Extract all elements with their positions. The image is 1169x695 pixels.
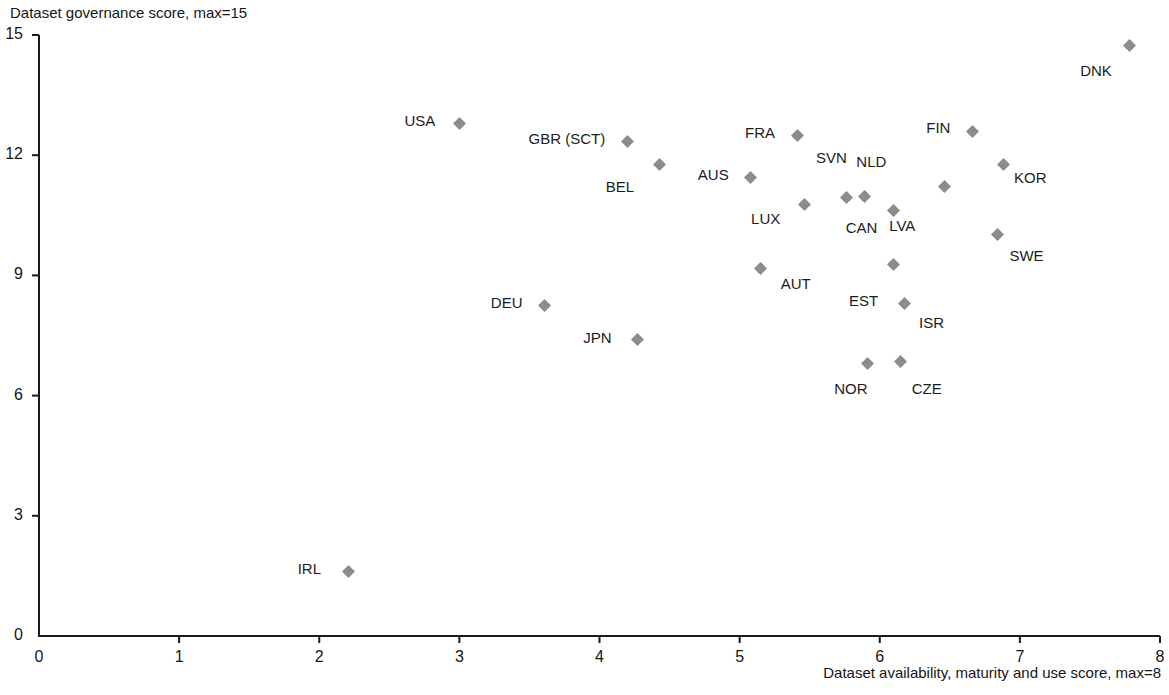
y-tick-label: 15 [0, 25, 23, 43]
data-point-marker[interactable] [990, 227, 1005, 242]
data-point-marker[interactable] [452, 116, 467, 131]
x-tick-label: 4 [585, 648, 615, 666]
data-point-marker[interactable] [857, 189, 872, 204]
x-tick-label: 1 [164, 648, 194, 666]
x-tick-label: 6 [865, 648, 895, 666]
data-point-marker[interactable] [630, 332, 645, 347]
scatter-chart: Dataset governance score, max=15 Dataset… [0, 0, 1169, 695]
data-point-label: CAN [843, 219, 881, 237]
data-point-marker[interactable] [937, 179, 952, 194]
data-point-label: AUS [695, 166, 732, 184]
y-tick-label: 3 [0, 506, 23, 524]
data-point-label: CZE [909, 380, 945, 398]
data-point-marker[interactable] [897, 296, 912, 311]
data-point-label: LVA [886, 217, 918, 235]
data-point-marker[interactable] [797, 197, 812, 212]
data-point-label: SVN [813, 149, 850, 167]
data-point-label: BEL [603, 178, 637, 196]
data-point-label: FRA [742, 124, 778, 142]
data-point-marker[interactable] [839, 190, 854, 205]
data-point-label: KOR [1011, 169, 1050, 187]
x-tick-label: 3 [444, 648, 474, 666]
data-point-label: USA [401, 112, 438, 130]
y-tick-label: 9 [0, 265, 23, 283]
axis-lines [0, 0, 1169, 695]
data-point-marker[interactable] [753, 261, 768, 276]
data-point-label: LUX [748, 210, 783, 228]
x-tick-label: 0 [24, 648, 54, 666]
data-point-marker[interactable] [620, 134, 635, 149]
data-point-marker[interactable] [996, 157, 1011, 172]
data-point-label: DEU [488, 294, 526, 312]
data-point-label: SWE [1006, 247, 1046, 265]
y-tick-label: 12 [0, 145, 23, 163]
data-point-label: AUT [778, 275, 814, 293]
x-tick-label: 5 [725, 648, 755, 666]
y-tick-label: 0 [0, 626, 23, 644]
data-point-label: IRL [295, 560, 324, 578]
data-point-label: NLD [853, 153, 889, 171]
data-point-marker[interactable] [341, 564, 356, 579]
data-point-marker[interactable] [965, 124, 980, 139]
y-tick-label: 6 [0, 386, 23, 404]
x-tick-label: 2 [304, 648, 334, 666]
data-point-label: ISR [916, 314, 947, 332]
data-point-label: GBR (SCT) [526, 130, 609, 148]
x-tick-label: 8 [1145, 648, 1169, 666]
x-tick-label: 7 [1005, 648, 1035, 666]
data-point-label: JPN [580, 329, 614, 347]
data-point-marker[interactable] [886, 257, 901, 272]
data-point-marker[interactable] [790, 128, 805, 143]
data-point-label: DNK [1077, 62, 1115, 80]
data-point-marker[interactable] [652, 157, 667, 172]
data-point-marker[interactable] [860, 356, 875, 371]
data-point-label: EST [846, 292, 881, 310]
data-point-label: FIN [923, 119, 953, 137]
data-point-marker[interactable] [537, 298, 552, 313]
data-point-marker[interactable] [1122, 38, 1137, 53]
data-point-marker[interactable] [743, 170, 758, 185]
data-point-marker[interactable] [886, 203, 901, 218]
data-point-label: NOR [831, 380, 870, 398]
data-point-marker[interactable] [893, 354, 908, 369]
